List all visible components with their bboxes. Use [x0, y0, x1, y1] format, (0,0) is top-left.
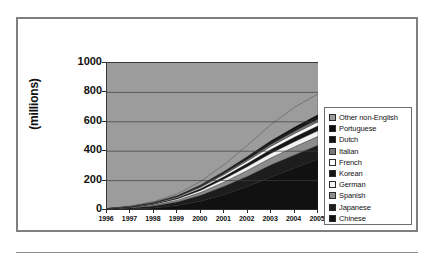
page-root: (millions) 10008006004002000 19961997199…	[0, 0, 434, 272]
area-series-group	[107, 63, 318, 210]
legend-item-label: Portuguese	[339, 124, 376, 133]
legend-item[interactable]: Dutch	[329, 134, 408, 145]
legend-item-label: Dutch	[339, 135, 358, 144]
y-tick-label: 200	[56, 173, 102, 185]
legend-item-label: Japanese	[339, 203, 371, 212]
legend-item[interactable]: German	[329, 179, 408, 190]
legend-swatch-icon	[329, 136, 336, 143]
legend-swatch-icon	[329, 125, 336, 132]
y-tick-label: 400	[56, 143, 102, 155]
x-tick-mark	[270, 209, 271, 213]
plot-area	[106, 62, 318, 210]
y-axis-title: (millions)	[27, 54, 41, 154]
legend-item-label: Korean	[339, 169, 363, 178]
y-axis-tick-labels: 10008006004002000	[54, 62, 102, 209]
x-axis-tick-labels: 1996199719981999200020012002200320042005	[106, 215, 317, 229]
footer-divider	[16, 252, 418, 253]
legend-item[interactable]: Other non-English	[329, 112, 408, 123]
legend-swatch-icon	[329, 170, 336, 177]
stacked-area-chart: (millions) 10008006004002000 19961997199…	[18, 19, 416, 230]
x-tick-mark	[176, 209, 177, 213]
legend-item[interactable]: Portuguese	[329, 123, 408, 134]
legend-item-label: Italian	[339, 147, 358, 156]
x-tick-mark	[106, 209, 107, 213]
legend-item[interactable]: Chinese	[329, 213, 408, 224]
legend-item-label: Spanish	[339, 191, 365, 200]
legend-item-label: French	[339, 158, 362, 167]
x-tick-mark	[317, 209, 318, 213]
x-axis-line	[106, 209, 318, 210]
y-tick-mark	[102, 62, 106, 63]
legend-swatch-icon	[329, 181, 336, 188]
legend-item[interactable]: Japanese	[329, 202, 408, 213]
legend-swatch-icon	[329, 192, 336, 199]
legend-swatch-icon	[329, 114, 336, 121]
legend-item[interactable]: Korean	[329, 168, 408, 179]
legend-item-label: Chinese	[339, 214, 366, 223]
legend-item-label: German	[339, 180, 366, 189]
legend-swatch-icon	[329, 204, 336, 211]
y-tick-label: 0	[56, 202, 102, 214]
legend-item[interactable]: Italian	[329, 146, 408, 157]
y-tick-label: 600	[56, 114, 102, 126]
legend-swatch-icon	[329, 159, 336, 166]
legend-item[interactable]: Spanish	[329, 190, 408, 201]
y-tick-mark	[102, 121, 106, 122]
y-tick-mark	[102, 150, 106, 151]
legend-swatch-icon	[329, 215, 336, 222]
x-tick-mark	[223, 209, 224, 213]
y-tick-label: 800	[56, 84, 102, 96]
x-tick-mark	[153, 209, 154, 213]
legend-item-label: Other non-English	[339, 113, 398, 122]
legend-swatch-icon	[329, 148, 336, 155]
y-tick-mark	[102, 180, 106, 181]
x-tick-mark	[247, 209, 248, 213]
x-tick-mark	[200, 209, 201, 213]
x-tick-mark	[129, 209, 130, 213]
y-tick-mark	[102, 91, 106, 92]
legend-item[interactable]: French	[329, 157, 408, 168]
chart-frame: (millions) 10008006004002000 19961997199…	[16, 17, 418, 232]
y-tick-label: 1000	[56, 55, 102, 67]
x-tick-mark	[294, 209, 295, 213]
chart-legend: Other non-EnglishPortugueseDutchItalianF…	[324, 107, 412, 225]
